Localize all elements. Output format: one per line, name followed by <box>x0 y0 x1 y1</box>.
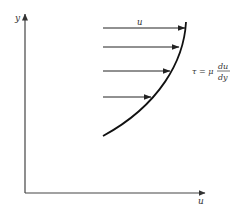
shear-stress-formula: τ = μ du dy <box>192 62 230 82</box>
formula-numerator: du <box>218 62 228 71</box>
y-axis-label: y <box>14 13 21 23</box>
velocity-arrows <box>103 28 185 97</box>
velocity-profile-curve <box>103 22 186 136</box>
x-axis-label: u <box>198 196 204 206</box>
profile-u-label: u <box>137 17 142 27</box>
velocity-profile-diagram: y u u τ = μ du dy <box>0 0 236 211</box>
formula-denominator: dy <box>218 73 228 82</box>
formula-lhs: τ = μ <box>192 67 213 76</box>
